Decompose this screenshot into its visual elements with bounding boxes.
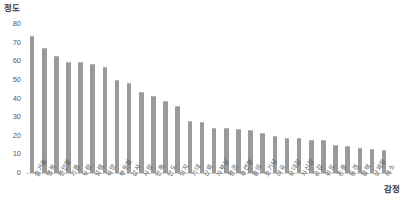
bar[interactable]	[175, 106, 180, 173]
y-axis-tick: 30	[13, 113, 21, 121]
bar-series	[26, 24, 390, 173]
bar-slot	[317, 24, 329, 173]
bar-slot	[62, 24, 74, 173]
y-axis-tick-labels: 80706050403020100	[0, 24, 24, 173]
y-axis-tick: 80	[13, 20, 21, 28]
bar[interactable]	[90, 64, 95, 173]
bar-chart: 정도 80706050403020100 즐거움행복편안함기쁨보람설렘희망뿌듯함…	[0, 0, 403, 222]
bar[interactable]	[54, 56, 59, 173]
bar-slot	[172, 24, 184, 173]
bar-slot	[26, 24, 38, 173]
bar-slot	[305, 24, 317, 173]
bar[interactable]	[115, 80, 120, 173]
bar-slot	[111, 24, 123, 173]
x-axis-title: 감정	[384, 182, 400, 194]
bar-slot	[123, 24, 135, 173]
bar-slot	[38, 24, 50, 173]
y-axis-tick: 70	[13, 39, 21, 47]
bar-slot	[196, 24, 208, 173]
y-axis-tick: 40	[13, 95, 21, 103]
bar[interactable]	[30, 36, 35, 173]
bar-slot	[160, 24, 172, 173]
bar[interactable]	[139, 92, 144, 173]
y-axis-title: 정도	[4, 1, 20, 13]
bar-slot	[281, 24, 293, 173]
bar-slot	[135, 24, 147, 173]
bar-slot	[147, 24, 159, 173]
bar-slot	[257, 24, 269, 173]
x-axis-tick[interactable]: 해소	[385, 164, 397, 178]
x-axis-tick-labels: 즐거움행복편안함기쁨보람설렘희망뿌듯함감사사랑만족안도의지기대신뢰자부심평온후련…	[26, 174, 390, 222]
y-axis-tick: 50	[13, 76, 21, 84]
bar-slot	[184, 24, 196, 173]
bar-slot	[232, 24, 244, 173]
bar-slot	[245, 24, 257, 173]
bar[interactable]	[103, 67, 108, 173]
bar-slot	[293, 24, 305, 173]
bar-slot	[75, 24, 87, 173]
bar-slot	[99, 24, 111, 173]
y-axis-tick: 10	[13, 151, 21, 159]
bar-slot	[208, 24, 220, 173]
bar-slot	[50, 24, 62, 173]
bar-slot	[342, 24, 354, 173]
bar[interactable]	[151, 96, 156, 173]
y-axis-tick: 0	[17, 169, 21, 177]
bar-slot	[87, 24, 99, 173]
bar-slot	[330, 24, 342, 173]
bar[interactable]	[78, 62, 83, 173]
bar[interactable]	[66, 62, 71, 173]
bar[interactable]	[42, 48, 47, 173]
y-axis-tick: 20	[13, 132, 21, 140]
bar[interactable]	[163, 101, 168, 173]
bar-slot	[378, 24, 390, 173]
bar-slot	[354, 24, 366, 173]
bar-slot	[269, 24, 281, 173]
y-axis-tick: 60	[13, 58, 21, 66]
bar-slot	[366, 24, 378, 173]
plot-area	[26, 24, 390, 173]
bar-slot	[220, 24, 232, 173]
